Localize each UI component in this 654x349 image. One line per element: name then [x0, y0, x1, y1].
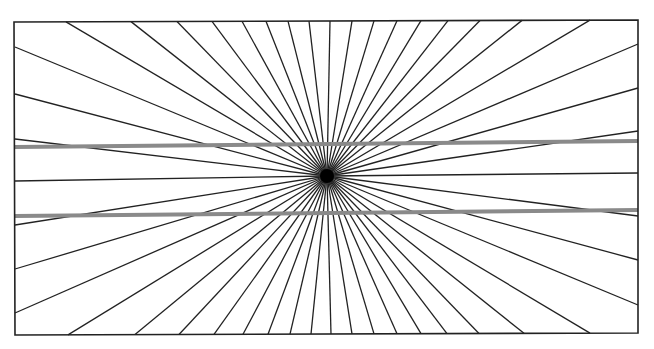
ray-line [15, 176, 327, 181]
ray-line [327, 173, 638, 176]
ray-line [327, 176, 638, 260]
hering-illusion-figure [0, 0, 654, 349]
ray-line [327, 176, 421, 334]
ray-line [15, 47, 327, 176]
ray-line [66, 22, 327, 176]
ray-line [327, 21, 352, 176]
ray-line [327, 176, 524, 333]
ray-line [68, 176, 327, 335]
ray-line [327, 21, 448, 176]
ray-line [242, 21, 327, 176]
ray-line [288, 21, 327, 176]
ray-line [243, 176, 327, 334]
ray-line [327, 131, 638, 176]
ray-line [15, 176, 327, 225]
center-hub [320, 169, 334, 183]
ray-line [327, 21, 397, 176]
ray-line [177, 21, 327, 176]
ray-line [290, 176, 327, 334]
ray-line [15, 94, 327, 176]
ray-line [327, 21, 330, 176]
ray-line [179, 176, 327, 334]
ray-line [327, 21, 421, 176]
ray-line [15, 176, 327, 313]
ray-line [327, 44, 638, 176]
ray-line [15, 176, 327, 269]
ray-line [327, 88, 638, 176]
ray-line [311, 176, 327, 334]
